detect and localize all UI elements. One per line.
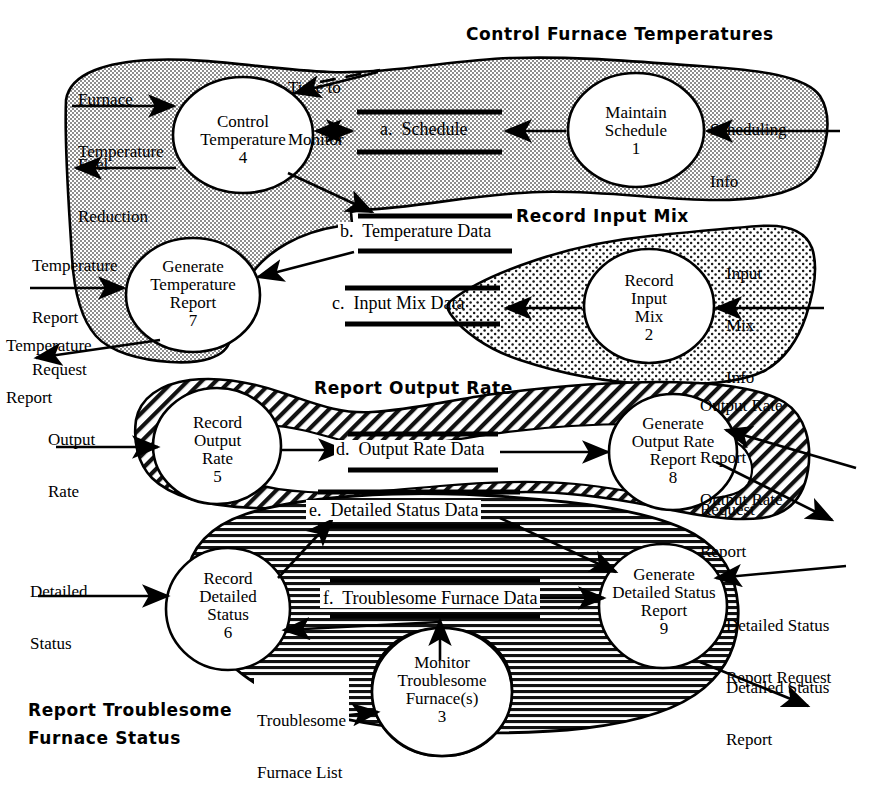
flow-troublesome-furnace-list-line1: Troublesome <box>257 712 346 729</box>
process-7-line3: Report <box>113 294 273 312</box>
data-store-b-label: b. Temperature Data <box>338 222 493 240</box>
process-3: Monitor Troublesome Furnace(s) 3 <box>372 654 512 726</box>
flow-output-rate-line2: Rate <box>48 483 95 500</box>
flow-input-mix-info-line2: Mix <box>726 317 762 334</box>
process-6-line3: Status <box>168 606 288 624</box>
flow-detailed-status: Detailed Status <box>30 548 88 687</box>
process-7: Generate Temperature Report 7 <box>113 258 273 330</box>
data-store-a-label: a. Schedule <box>378 120 469 138</box>
data-store-d-label: d. Output Rate Data <box>334 440 486 458</box>
flow-output-rate-line1: Output <box>48 431 95 448</box>
flow-output-rate-report-line2: Report <box>700 543 783 560</box>
process-2-line3: Mix <box>589 308 709 326</box>
flow-time-to-monitor: Time to Monitor <box>288 44 344 183</box>
region-title-report-troublesome-furnace-status-line2: Furnace Status <box>28 730 181 747</box>
region-title-report-output-rate: Report Output Rate <box>314 380 513 397</box>
flow-troublesome-furnace-list: Troublesome Furnace List <box>254 676 349 804</box>
process-9-line3: Report <box>580 602 748 620</box>
flow-time-to-monitor-line2: Monitor <box>288 131 344 148</box>
region-title-report-troublesome-furnace-status-line1: Report Troublesome <box>28 702 232 719</box>
flow-detailed-status-report-request-line1: Detailed Status <box>726 617 831 634</box>
process-9-number: 9 <box>580 620 748 638</box>
flow-furnace-temperature-line1: Furnace <box>78 91 164 108</box>
region-title-control-furnace-temperatures: Control Furnace Temperatures <box>466 26 774 43</box>
flow-temperature-report-request-line1: Temperature <box>32 257 118 274</box>
process-6: Record Detailed Status 6 <box>168 570 288 642</box>
region-title-record-input-mix: Record Input Mix <box>516 208 689 225</box>
process-5-line3: Rate <box>160 450 275 468</box>
process-7-line1: Generate <box>113 258 273 276</box>
flow-output-rate-report-request-line1: Output Rate <box>700 397 783 414</box>
process-1-line2: Schedule <box>556 122 716 140</box>
process-5: Record Output Rate 5 <box>160 414 275 486</box>
process-2-number: 2 <box>589 326 709 344</box>
dfd-diagram: Control Furnace Temperatures Record Inpu… <box>0 0 870 804</box>
process-3-line3: Furnace(s) <box>372 690 512 708</box>
process-2-line1: Record <box>589 272 709 290</box>
process-1: Maintain Schedule 1 <box>556 104 716 158</box>
flow-scheduling-info: Scheduling Info <box>710 86 787 225</box>
flow-detailed-status-line1: Detailed <box>30 583 88 600</box>
flow-detailed-status-report: Detailed Status Report <box>726 644 829 783</box>
process-6-line1: Record <box>168 570 288 588</box>
flow-output-rate-report-line1: Output Rate <box>700 491 783 508</box>
flow-fuel-reduction-line1: Fuel <box>78 156 148 173</box>
process-3-line1: Monitor <box>372 654 512 672</box>
process-6-line2: Detailed <box>168 588 288 606</box>
flow-output-rate: Output Rate <box>48 396 95 535</box>
data-store-c-label: c. Input Mix Data <box>330 294 466 312</box>
process-7-line2: Temperature <box>113 276 273 294</box>
process-6-number: 6 <box>168 624 288 642</box>
process-7-number: 7 <box>113 312 273 330</box>
flow-troublesome-furnace-list-line2: Furnace List <box>257 764 346 781</box>
flow-time-to-monitor-line1: Time to <box>288 79 344 96</box>
flow-input-mix-info-line1: Input <box>726 265 762 282</box>
process-2-line2: Input <box>589 290 709 308</box>
data-store-f-label: f. Troublesome Furnace Data <box>320 588 540 608</box>
process-5-line2: Output <box>160 432 275 450</box>
data-store-e-label: e. Detailed Status Data <box>306 500 481 520</box>
flow-detailed-status-report-line2: Report <box>726 731 829 748</box>
process-3-line2: Troublesome <box>372 672 512 690</box>
flow-output-rate-report: Output Rate Report <box>700 456 783 595</box>
flow-temperature-report-line1: Temperature <box>6 337 92 354</box>
process-1-number: 1 <box>556 140 716 158</box>
process-5-line1: Record <box>160 414 275 432</box>
flow-detailed-status-line2: Status <box>30 635 88 652</box>
process-2: Record Input Mix 2 <box>589 272 709 344</box>
flow-scheduling-info-line2: Info <box>710 173 787 190</box>
flow-scheduling-info-line1: Scheduling <box>710 121 787 138</box>
flow-detailed-status-report-line1: Detailed Status <box>726 679 829 696</box>
process-3-number: 3 <box>372 708 512 726</box>
process-5-number: 5 <box>160 468 275 486</box>
process-1-line1: Maintain <box>556 104 716 122</box>
